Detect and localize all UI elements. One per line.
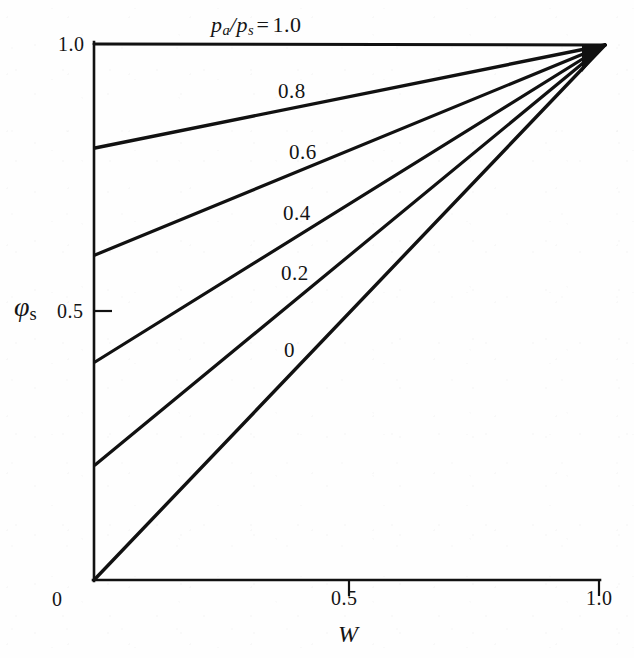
y-tick-label-1.0: 1.0 bbox=[58, 34, 85, 54]
ratio-numerator: p bbox=[211, 12, 223, 37]
x-tick-label-1.0: 1.0 bbox=[586, 588, 613, 608]
ratio-equals: = bbox=[254, 12, 273, 37]
curve-label-0.6: 0.6 bbox=[289, 142, 317, 163]
y-tick-label-0.5: 0.5 bbox=[57, 301, 84, 321]
curve-label-0: 0 bbox=[284, 340, 295, 361]
curve-0.8 bbox=[95, 45, 605, 148]
figure-page: pa/ps=1.0 1.0 0.5 φs 0 0.5 1.0 W 0.8 0.6… bbox=[0, 0, 634, 658]
ratio-denominator-subscript: s bbox=[248, 22, 254, 38]
curve-label-0.4: 0.4 bbox=[283, 203, 311, 224]
curve-1.0 bbox=[94, 44, 605, 45]
ratio-numerator-subscript: a bbox=[223, 22, 230, 38]
ratio-annotation: pa/ps=1.0 bbox=[211, 14, 301, 38]
y-axis-symbol: φ bbox=[14, 291, 30, 322]
curve-label-0.2: 0.2 bbox=[281, 263, 309, 284]
y-axis-title: φs bbox=[14, 293, 37, 324]
x-tick-label-0: 0 bbox=[52, 589, 63, 609]
x-axis-title: W bbox=[338, 622, 358, 646]
ratio-denominator: p bbox=[236, 12, 248, 37]
y-axis-symbol-subscript: s bbox=[30, 304, 37, 324]
plot-canvas bbox=[0, 0, 634, 658]
x-tick-label-0.5: 0.5 bbox=[331, 588, 358, 608]
curve-0 bbox=[95, 45, 605, 579]
ratio-value: 1.0 bbox=[272, 12, 301, 37]
curve-label-0.8: 0.8 bbox=[278, 81, 306, 102]
curve-0.6 bbox=[95, 45, 605, 255]
curve-0.2 bbox=[95, 45, 605, 465]
